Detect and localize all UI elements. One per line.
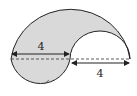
right-dimension-label: 4	[97, 67, 104, 80]
shaded-region	[11, 9, 130, 83]
left-dimension-label: 4	[38, 40, 45, 53]
shaded-region-diagram: 4 4	[0, 0, 137, 96]
